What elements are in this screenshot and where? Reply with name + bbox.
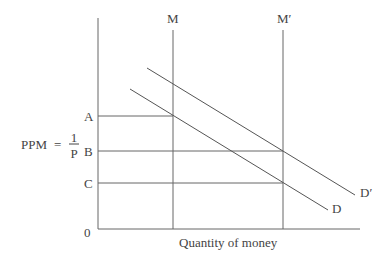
y-axis-label-equals: =	[54, 138, 61, 151]
label-m: M	[167, 12, 179, 25]
label-b: B	[84, 145, 93, 158]
y-axis-label-numerator: 1	[68, 130, 80, 146]
y-axis-label-denominator: P	[68, 146, 80, 162]
demand-curve-d-prime	[147, 68, 355, 195]
demand-curve-d	[130, 89, 328, 210]
x-axis-label: Quantity of money	[179, 236, 277, 249]
label-d: D	[332, 202, 341, 215]
label-m-prime: M′	[277, 12, 291, 25]
label-c: C	[84, 177, 93, 190]
chart-canvas	[0, 0, 388, 261]
label-a: A	[84, 110, 93, 123]
y-axis-label-ppm: PPM	[21, 138, 47, 151]
label-d-prime: D′	[360, 186, 372, 199]
label-origin: 0	[84, 226, 91, 239]
